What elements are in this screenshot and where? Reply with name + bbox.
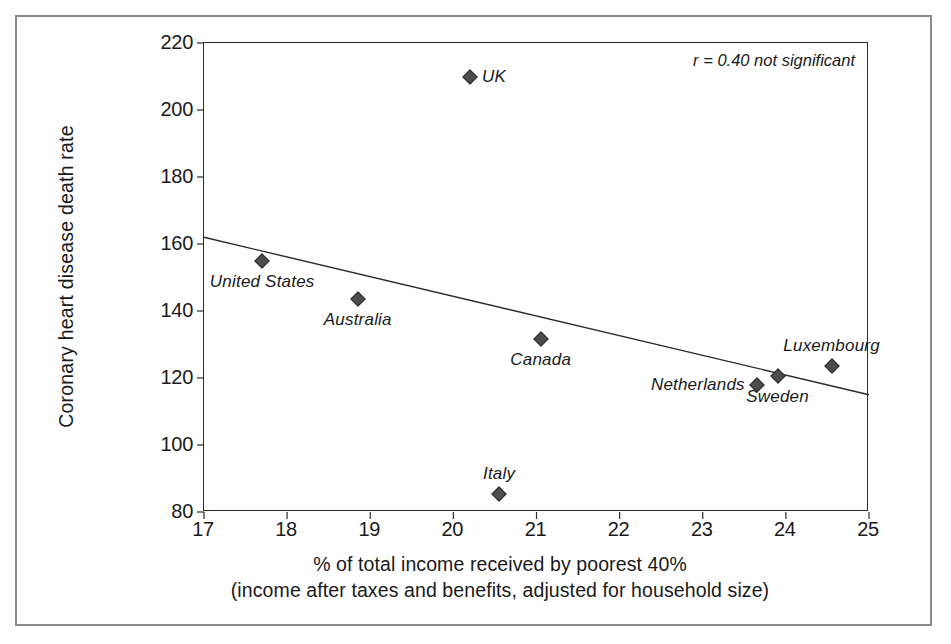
x-tick-label: 19 [358, 518, 380, 541]
x-tick-label: 21 [525, 518, 547, 541]
x-axis-title-line2: (income after taxes and benefits, adjust… [120, 577, 880, 603]
y-axis-title-text: Coronary heart disease death rate [55, 125, 78, 428]
y-tick-label: 180 [161, 165, 193, 188]
data-point-label: UK [482, 67, 506, 87]
x-axis-tick-labels: 171819202122232425 [203, 518, 868, 546]
trend-line [204, 237, 869, 394]
correlation-annotation: r = 0.40 not significant [693, 51, 855, 70]
y-tick-label: 80 [171, 500, 193, 523]
data-point-label: United States [210, 272, 315, 292]
y-tick-label: 160 [161, 232, 193, 255]
x-tick-label: 20 [442, 518, 464, 541]
y-tick-label: 220 [161, 31, 193, 54]
y-tick-label: 100 [161, 433, 193, 456]
y-axis-title: Coronary heart disease death rate [51, 42, 81, 511]
x-tick-label: 25 [857, 518, 879, 541]
data-point-label: Luxembourg [783, 336, 880, 356]
y-tick-label: 120 [161, 366, 193, 389]
x-tick-label: 17 [192, 518, 214, 541]
figure-container: Coronary heart disease death rate 801001… [0, 0, 951, 644]
data-point-label: Netherlands [651, 375, 745, 395]
x-tick-label: 23 [691, 518, 713, 541]
x-tick-label: 22 [608, 518, 630, 541]
y-tick-label: 200 [161, 98, 193, 121]
x-axis-title: % of total income received by poorest 40… [120, 551, 880, 603]
data-point-label: Canada [510, 350, 571, 370]
x-axis-title-line1: % of total income received by poorest 40… [120, 551, 880, 577]
x-tick-label: 24 [774, 518, 796, 541]
x-tick-label: 18 [275, 518, 297, 541]
data-point-label: Australia [324, 310, 392, 330]
y-axis-tick-labels: 80100120140160180200220 [145, 42, 193, 511]
y-tick-label: 140 [161, 299, 193, 322]
data-point-label: Italy [483, 464, 515, 484]
plot-area: r = 0.40 not significant UKUnited States… [203, 42, 868, 511]
